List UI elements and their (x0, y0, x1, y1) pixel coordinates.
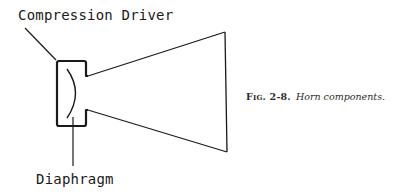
horn-top-edge (88, 32, 225, 76)
horn-bottom-edge (88, 110, 227, 152)
diaphragm-curve (67, 69, 76, 118)
figure-title: Horn components. (296, 91, 385, 102)
figure-number: Fig. 2-8. (246, 91, 291, 102)
horn-components-diagram: Compression Driver Diaphragm Fig. 2-8. H… (0, 0, 408, 196)
horn-mouth (225, 32, 227, 152)
figure-caption: Fig. 2-8. Horn components. (246, 91, 385, 102)
compression-driver-label: Compression Driver (18, 7, 173, 23)
compression-driver-leader-line (25, 28, 56, 60)
diaphragm-label: Diaphragm (36, 171, 114, 187)
compression-driver-body (57, 61, 88, 126)
